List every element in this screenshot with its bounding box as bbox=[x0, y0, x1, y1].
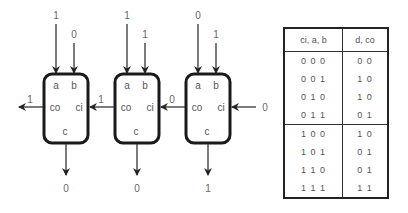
row-inputs: 1 1 0 bbox=[284, 161, 343, 179]
block-2-output-c-value: 0 bbox=[134, 183, 140, 194]
block-3-label-a: a bbox=[195, 80, 201, 91]
block-1-label-co: co bbox=[50, 102, 61, 113]
table-row: 0 1 1 0 1 bbox=[284, 106, 388, 125]
row-outputs: 0 1 bbox=[343, 161, 389, 179]
row-inputs: 1 0 0 bbox=[284, 125, 343, 144]
block-3-label-ci: ci bbox=[217, 102, 224, 113]
block-3-label-b: b bbox=[213, 80, 219, 91]
block-2-label-ci: ci bbox=[146, 102, 153, 113]
table-row: 1 0 1 0 1 bbox=[284, 143, 388, 161]
adder-block-3: 0 1 a b co ci c 0 0 1 bbox=[161, 10, 268, 194]
block-1-label-ci: ci bbox=[75, 102, 82, 113]
block-2-label-b: b bbox=[142, 80, 148, 91]
block-1-carry-out-value: 1 bbox=[27, 94, 33, 105]
adder-block-1: 1 0 a b co ci c 1 0 bbox=[19, 10, 88, 194]
row-inputs: 0 1 1 bbox=[284, 106, 343, 125]
block-2-label-co: co bbox=[121, 102, 132, 113]
block-3-carry-in-value: 0 bbox=[262, 102, 268, 113]
block-1-input-b-value: 0 bbox=[71, 29, 77, 40]
block-1-label-a: a bbox=[53, 80, 59, 91]
row-outputs: 0 0 bbox=[343, 52, 389, 71]
row-inputs: 0 0 1 bbox=[284, 70, 343, 88]
row-outputs: 0 1 bbox=[343, 143, 389, 161]
table-row: 0 0 1 1 0 bbox=[284, 70, 388, 88]
block-1-label-c: c bbox=[63, 126, 68, 137]
block-2-input-b-value: 1 bbox=[142, 29, 148, 40]
table-row: 1 1 1 1 1 bbox=[284, 179, 388, 198]
truth-table-header-row: ci, a, b d, co bbox=[284, 28, 388, 52]
header-outputs: d, co bbox=[343, 28, 389, 52]
block-1-input-a-value: 1 bbox=[53, 10, 59, 21]
adder-block-2: 1 1 a b co ci c 1 0 bbox=[90, 10, 159, 194]
row-inputs: 1 1 1 bbox=[284, 179, 343, 198]
block-2-label-a: a bbox=[124, 80, 130, 91]
truth-table: ci, a, b d, co 0 0 0 0 0 0 0 1 1 0 0 1 0… bbox=[283, 27, 389, 199]
block-2-label-c: c bbox=[134, 126, 139, 137]
row-outputs: 1 0 bbox=[343, 88, 389, 106]
adder-chain-diagram: 1 0 a b co ci c 1 0 1 1 a b co ci c 1 0 … bbox=[0, 0, 280, 213]
block-3-input-b-value: 1 bbox=[213, 29, 219, 40]
table-row: 0 0 0 0 0 bbox=[284, 52, 388, 71]
block-3-output-c-value: 1 bbox=[205, 183, 211, 194]
block-1-output-c-value: 0 bbox=[63, 183, 69, 194]
table-row: 0 1 0 1 0 bbox=[284, 88, 388, 106]
block-3-carry-out-value: 0 bbox=[169, 94, 175, 105]
row-outputs: 1 1 bbox=[343, 179, 389, 198]
block-3-label-c: c bbox=[205, 126, 210, 137]
block-1-label-b: b bbox=[71, 80, 77, 91]
row-inputs: 0 0 0 bbox=[284, 52, 343, 71]
block-2-carry-out-value: 1 bbox=[98, 94, 104, 105]
block-2-input-a-value: 1 bbox=[124, 10, 130, 21]
block-3-input-a-value: 0 bbox=[195, 10, 201, 21]
table-row: 1 0 0 1 0 bbox=[284, 125, 388, 144]
header-inputs: ci, a, b bbox=[284, 28, 343, 52]
block-3-label-co: co bbox=[192, 102, 203, 113]
table-row: 1 1 0 0 1 bbox=[284, 161, 388, 179]
row-inputs: 1 0 1 bbox=[284, 143, 343, 161]
row-outputs: 0 1 bbox=[343, 106, 389, 125]
row-outputs: 1 0 bbox=[343, 70, 389, 88]
row-inputs: 0 1 0 bbox=[284, 88, 343, 106]
row-outputs: 1 0 bbox=[343, 125, 389, 144]
